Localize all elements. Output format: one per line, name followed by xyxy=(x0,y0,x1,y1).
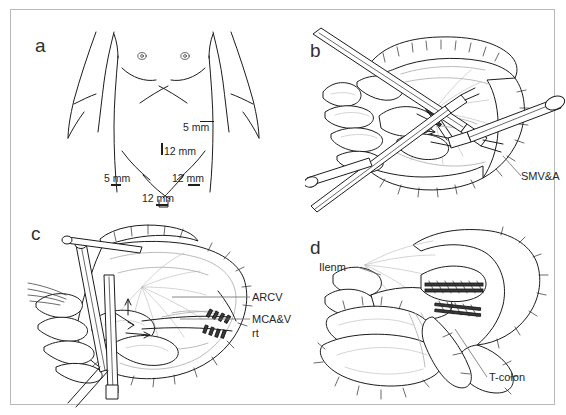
port-label-suprapubic-12mm: 12 mm xyxy=(142,192,174,204)
annotation-mcav: MCA&V xyxy=(252,313,291,326)
port-label-right-12mm: 12 mm xyxy=(172,172,204,184)
port-label-epigastric-5mm: 5 mm xyxy=(183,121,209,133)
panel-b: SMV&A xyxy=(305,20,565,217)
annotation-arcv: ARCV xyxy=(252,291,283,304)
panel-letter-d: d xyxy=(310,238,321,257)
port-label-supraumbilical-12mm: 12 mm xyxy=(164,145,196,157)
panel-b-drawing xyxy=(305,20,565,217)
port-marker-supraumbilical xyxy=(161,143,163,155)
panel-letter-b: b xyxy=(310,41,321,60)
panel-letter-a: a xyxy=(35,36,46,55)
panel-letter-c: c xyxy=(31,224,41,243)
annotation-mcav-side: rt xyxy=(252,327,259,340)
port-marker-right xyxy=(188,184,200,186)
annotation-tcolon: T-colon xyxy=(489,371,525,384)
port-marker-suprapubic xyxy=(156,204,168,206)
port-marker-epigastric xyxy=(200,121,214,122)
panel-a-drawing xyxy=(22,20,305,217)
figure-root: 5 mm 12 mm 5 mm 12 mm 12 mm xyxy=(0,0,566,415)
port-label-left-5mm: 5 mm xyxy=(104,172,130,184)
annotation-smva: SMV&A xyxy=(521,170,560,183)
annotation-ileum: Ilenm xyxy=(319,261,346,274)
panel-d-drawing xyxy=(305,217,565,414)
port-marker-left xyxy=(111,184,121,186)
panel-c: ARCV MCA&V rt xyxy=(22,217,305,414)
figure-frame: 5 mm 12 mm 5 mm 12 mm 12 mm xyxy=(10,9,555,405)
panel-a: 5 mm 12 mm 5 mm 12 mm 12 mm xyxy=(22,20,305,217)
panel-d: Ilenm T-colon xyxy=(305,217,565,414)
